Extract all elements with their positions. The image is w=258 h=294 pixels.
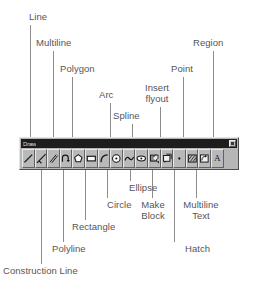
arc-icon: [99, 153, 110, 164]
rectangle-icon: [86, 153, 97, 164]
toolbar-button-ellipse[interactable]: [135, 149, 148, 168]
toolbar-button-circle[interactable]: [110, 149, 123, 168]
toolbar-button-row: A: [21, 149, 237, 169]
leader-line-rectangle: [85, 170, 86, 220]
callout-label-polyline: Polyline: [52, 244, 86, 255]
draw-toolbar: Draw: [19, 137, 239, 170]
callout-label-region: Region: [193, 38, 223, 49]
toolbar-button-region[interactable]: [198, 149, 211, 168]
illustration-canvas: Line Multiline Polygon Arc Spline Insert…: [0, 0, 258, 294]
callout-label-multiline-text: Multiline Text: [180, 200, 222, 221]
text-a-icon: A: [214, 154, 221, 163]
leader-line-circle: [107, 170, 108, 198]
leader-line-point: [183, 77, 184, 137]
polygon-icon: [73, 153, 84, 164]
toolbar-button-multiline[interactable]: [47, 149, 60, 168]
callout-label-hatch: Hatch: [185, 244, 210, 255]
toolbar-button-spline[interactable]: [123, 149, 136, 168]
callout-label-construction-line: Construction Line: [3, 266, 78, 277]
leader-line-hatch: [174, 170, 175, 242]
callout-label-make-block: Make Block: [139, 200, 167, 221]
make-block-icon: [162, 153, 173, 164]
circle-icon: [111, 153, 122, 164]
callout-label-rectangle: Rectangle: [72, 222, 115, 233]
toolbar-button-multiline-text[interactable]: A: [211, 149, 224, 168]
callout-label-multiline: Multiline: [36, 38, 71, 49]
callout-label-polygon: Polygon: [60, 64, 95, 75]
leader-line-construction-line: [41, 170, 42, 264]
leader-line-polygon: [72, 77, 73, 137]
toolbar-titlebar[interactable]: Draw: [21, 139, 237, 148]
toolbar-button-rectangle[interactable]: [85, 149, 98, 168]
callout-label-circle: Circle: [107, 200, 132, 211]
leader-line-insert-flyout: [160, 107, 161, 137]
toolbar-button-polyline[interactable]: [60, 149, 73, 168]
toolbar-button-hatch[interactable]: [186, 149, 199, 168]
toolbar-button-polygon[interactable]: [72, 149, 85, 168]
callout-label-ellipse: Ellipse: [129, 183, 157, 194]
leader-line-spline: [132, 124, 133, 137]
multiline-icon: [48, 153, 59, 164]
toolbar-button-arc[interactable]: [98, 149, 111, 168]
toolbar-button-make-block[interactable]: [161, 149, 174, 168]
line-icon: [23, 153, 34, 164]
region-icon: [199, 153, 210, 164]
callout-label-spline: Spline: [113, 111, 140, 122]
leader-line-region: [213, 51, 214, 137]
spline-icon: [124, 153, 135, 164]
point-icon: [174, 153, 185, 164]
toolbar-button-construction-line[interactable]: [35, 149, 48, 168]
hatch-icon: [187, 153, 198, 164]
toolbar-button-point[interactable]: [173, 149, 186, 168]
close-glyph: [231, 142, 234, 145]
leader-line-ellipse: [130, 170, 131, 181]
ellipse-icon: [136, 153, 147, 164]
insert-block-icon: [149, 153, 160, 164]
leader-line-line: [30, 25, 31, 137]
callout-label-point: Point: [171, 64, 193, 75]
construction-line-icon: [36, 153, 47, 164]
leader-line-polyline: [63, 170, 64, 242]
toolbar-button-insert-flyout[interactable]: [148, 149, 161, 168]
polyline-icon: [61, 153, 72, 164]
toolbar-title: Draw: [21, 141, 36, 147]
callout-label-arc: Arc: [99, 90, 113, 101]
callout-label-line: Line: [29, 12, 47, 23]
close-icon[interactable]: [229, 140, 236, 147]
toolbar-button-line[interactable]: [22, 149, 35, 168]
callout-label-insert-flyout: Insert flyout: [140, 83, 174, 104]
leader-line-arc: [110, 103, 111, 137]
leader-line-multiline: [53, 51, 54, 137]
leader-line-multiline-text: [196, 170, 197, 198]
